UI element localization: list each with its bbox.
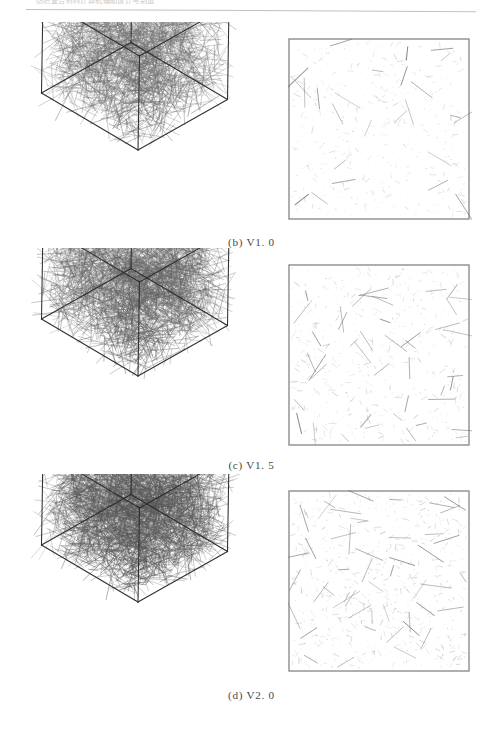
cube-fiber-fill-c: [32, 248, 236, 379]
section-panel-c: [288, 264, 472, 448]
section-panel-d: [288, 490, 472, 674]
cube-fiber-fill-d: [32, 474, 240, 600]
figure-row-b: [0, 22, 503, 248]
3d-fiber-cube-svg-b: [12, 22, 260, 234]
page-running-header: 纺织复合材料计算机辅助设计与制造: [0, 0, 503, 14]
caption-text-d: (d) V2. 0: [228, 689, 275, 701]
cube-panel-c: [12, 248, 260, 460]
3d-fiber-cube-svg-d: [12, 474, 260, 686]
caption-text-b: (b) V1. 0: [228, 236, 275, 248]
figure-row-c: [0, 248, 503, 474]
cube-panel-b: [12, 22, 260, 234]
figure-caption-d: (d) V2. 0: [0, 689, 503, 701]
section-border-d: [289, 491, 469, 671]
cube-panel-d: [12, 474, 260, 686]
cube-fiber-fill-b: [31, 22, 236, 146]
running-head-text: 纺织复合材料计算机辅助设计与制造: [36, 0, 154, 5]
cross-section-svg-c: [288, 264, 472, 448]
section-border-c: [289, 265, 469, 445]
section-panel-b: [288, 38, 472, 222]
cross-section-svg-d: [288, 490, 472, 674]
figure-caption-c: (c) V1. 5: [0, 459, 503, 471]
figure-caption-b: (b) V1. 0: [0, 236, 503, 248]
figure-row-d: [0, 474, 503, 700]
section-border-b: [289, 39, 469, 219]
caption-text-c: (c) V1. 5: [228, 459, 274, 471]
cross-section-svg-b: [288, 38, 472, 222]
header-divider: [26, 9, 476, 12]
3d-fiber-cube-svg-c: [12, 248, 260, 460]
